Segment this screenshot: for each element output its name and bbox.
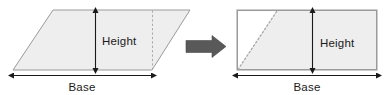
parallelogram-height-label: Height — [102, 35, 137, 47]
parallelogram-area-diagram: Height Base Height Base — [0, 0, 386, 95]
rectangle-height-label: Height — [320, 37, 355, 49]
transform-arrow-icon — [186, 36, 226, 58]
diagram-canvas: Height Base Height Base — [0, 0, 386, 95]
parallelogram-base-label: Base — [68, 81, 95, 93]
rectangle-base-label: Base — [293, 81, 320, 93]
right-arrow-glyph — [186, 36, 226, 58]
right-rectangle-group: Height Base — [237, 10, 377, 93]
left-parallelogram-group: Height Base — [13, 10, 190, 93]
